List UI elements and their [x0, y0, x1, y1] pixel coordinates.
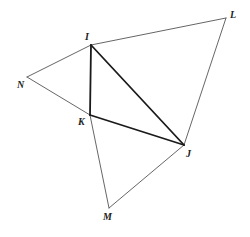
vertex-label-n: N [16, 79, 25, 90]
segments-group [27, 18, 226, 208]
geometry-diagram: ILNKJM [0, 0, 250, 237]
vertex-label-m: M [102, 211, 113, 222]
segment-nk [27, 77, 90, 115]
vertex-label-j: J [185, 148, 192, 159]
vertex-label-k: K [77, 116, 86, 127]
vertex-labels-group: ILNKJM [16, 9, 236, 222]
vertex-label-i: I [84, 31, 90, 42]
segment-mj [109, 145, 184, 208]
segment-il [91, 18, 226, 45]
segment-lj [184, 18, 226, 145]
vertex-label-l: L [229, 9, 236, 20]
segment-km [90, 115, 109, 208]
segment-in [27, 45, 91, 77]
segment-ik [90, 45, 91, 115]
